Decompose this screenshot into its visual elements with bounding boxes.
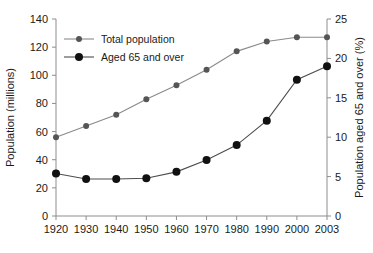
data-point xyxy=(173,82,179,88)
right-axis-title: Population aged 65 and over (%) xyxy=(353,37,365,198)
series-line xyxy=(56,37,327,137)
legend-item xyxy=(64,53,94,61)
data-point xyxy=(142,174,150,182)
right-axis-tick-label: 10 xyxy=(335,131,347,143)
right-axis-tick-label: 15 xyxy=(335,92,347,104)
legend-item xyxy=(64,36,94,42)
data-point xyxy=(172,168,180,176)
right-axis-tick-label: 0 xyxy=(335,210,341,222)
left-axis-tick-label: 140 xyxy=(30,13,48,25)
data-point xyxy=(53,134,59,140)
data-point xyxy=(233,141,241,149)
x-axis-tick-label: 1940 xyxy=(104,223,128,235)
series-total-population xyxy=(53,34,330,140)
data-point xyxy=(234,48,240,54)
series-line xyxy=(56,66,327,179)
x-axis-tick-label: 1980 xyxy=(224,223,248,235)
left-axis-tick-label: 80 xyxy=(36,97,48,109)
data-point xyxy=(264,39,270,45)
data-point xyxy=(143,96,149,102)
data-point xyxy=(204,67,210,73)
chart-container: 0204060801001201400510152025192019301940… xyxy=(0,0,373,253)
data-point xyxy=(83,123,89,129)
x-axis-tick-label: 2003 xyxy=(315,223,339,235)
x-axis-tick-label: 1930 xyxy=(74,223,98,235)
population-line-chart: 0204060801001201400510152025192019301940… xyxy=(0,0,373,253)
data-point xyxy=(324,34,330,40)
left-axis-tick-label: 0 xyxy=(42,210,48,222)
left-axis-title: Population (millions) xyxy=(4,68,16,167)
data-point xyxy=(203,156,211,164)
left-axis-tick-label: 60 xyxy=(36,126,48,138)
left-axis-tick-label: 100 xyxy=(30,69,48,81)
x-axis-tick-label: 1990 xyxy=(255,223,279,235)
right-axis-tick-label: 20 xyxy=(335,52,347,64)
data-point xyxy=(113,112,119,118)
legend-label: Total population xyxy=(101,33,175,45)
x-axis-tick-label: 1960 xyxy=(164,223,188,235)
data-point xyxy=(112,175,120,183)
left-axis-tick-label: 40 xyxy=(36,154,48,166)
left-axis-tick-label: 120 xyxy=(30,41,48,53)
legend-label: Aged 65 and over xyxy=(101,51,184,63)
data-point xyxy=(263,117,271,125)
x-axis-tick-label: 1970 xyxy=(194,223,218,235)
legend-swatch-marker xyxy=(76,36,82,42)
x-axis-tick-label: 1950 xyxy=(134,223,158,235)
x-axis-tick-label: 1920 xyxy=(44,223,68,235)
data-point xyxy=(52,169,60,177)
left-axis-tick-label: 20 xyxy=(36,182,48,194)
data-point xyxy=(294,34,300,40)
right-axis-tick-label: 25 xyxy=(335,13,347,25)
data-point xyxy=(82,175,90,183)
data-point xyxy=(293,76,301,84)
x-axis-tick-label: 2000 xyxy=(285,223,309,235)
legend-swatch-marker xyxy=(75,53,83,61)
right-axis-tick-label: 5 xyxy=(335,171,341,183)
data-point xyxy=(323,62,331,70)
